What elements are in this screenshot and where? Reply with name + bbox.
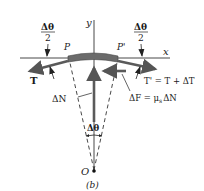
tension-left-arrow [30,61,68,71]
half-angle-left-den: 2 [45,33,51,43]
tension-right-label: T' = T + ΔT [144,76,195,86]
point-p-prime-label: P' [116,42,126,52]
origin-point [92,169,96,173]
half-angle-right-num: Δθ [134,22,147,32]
angle-pointer-t-right [136,67,140,79]
x-axis-label: x [163,46,169,57]
belt-friction-diagram: y x Δθ 2 Δθ 2 P P' T T' = T + ΔT ΔN ΔF =… [0,0,204,191]
point-p-label: P [63,42,71,52]
figure-caption: (b) [86,180,99,190]
radial-dashed-line-right [94,63,117,170]
friction-leader [122,74,130,91]
full-angle-label: Δθ [87,123,100,133]
half-angle-right-den: 2 [138,33,144,43]
tension-left-label: T [30,75,38,86]
tension-right-arrow [118,61,155,69]
friction-force-label: ΔF = μsΔN [129,93,177,104]
y-axis-label: y [85,17,92,28]
normal-leader [78,93,92,97]
belt-segment [68,53,118,62]
half-angle-pointer-left [47,44,48,56]
radial-dashed-line-left [70,63,94,170]
origin-label: O [81,166,89,177]
half-angle-left-num: Δθ [41,22,54,32]
angle-pointer-t-left [50,67,54,79]
half-angle-pointer-right [141,44,142,56]
normal-force-label: ΔN [52,94,66,104]
